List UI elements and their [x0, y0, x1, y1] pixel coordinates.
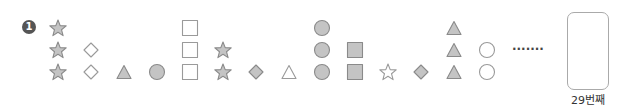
triangle-icon — [445, 41, 463, 59]
square-icon — [346, 63, 364, 81]
ellipsis-continuation: ······· — [512, 42, 544, 56]
triangle-icon — [445, 63, 463, 81]
square-icon — [346, 41, 364, 59]
star-icon — [214, 41, 232, 59]
triangle-icon — [280, 63, 298, 81]
star-icon — [379, 63, 397, 81]
circle-icon — [478, 63, 496, 81]
square-icon — [181, 63, 199, 81]
triangle-icon — [115, 63, 133, 81]
star-icon — [214, 63, 232, 81]
problem-number-badge: 1 — [22, 20, 36, 34]
triangle-icon — [445, 19, 463, 37]
answer-box-label: 29번째 — [564, 91, 612, 107]
diamond-icon — [412, 63, 430, 81]
circle-icon — [148, 63, 166, 81]
diamond-icon — [82, 63, 100, 81]
answer-box[interactable] — [567, 12, 609, 90]
circle-icon — [313, 41, 331, 59]
circle-icon — [313, 63, 331, 81]
diamond-icon — [247, 63, 265, 81]
star-icon — [49, 63, 67, 81]
diamond-icon — [82, 41, 100, 59]
square-icon — [181, 19, 199, 37]
circle-icon — [313, 19, 331, 37]
star-icon — [49, 19, 67, 37]
star-icon — [49, 41, 67, 59]
circle-icon — [478, 41, 496, 59]
square-icon — [181, 41, 199, 59]
